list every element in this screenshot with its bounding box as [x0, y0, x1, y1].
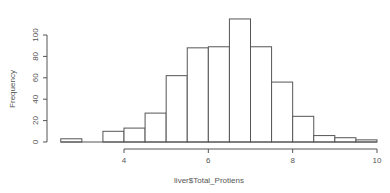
bars-group [61, 19, 377, 142]
y-tick-label: 60 [31, 73, 40, 82]
histogram-bar [103, 131, 124, 142]
histogram-bar [229, 19, 250, 142]
histogram-bar [145, 113, 166, 142]
x-tick-label: 10 [373, 156, 382, 165]
x-tick-label: 6 [206, 156, 211, 165]
x-axis-title: liver$Total_Protiens [174, 176, 244, 185]
histogram-bar [166, 76, 187, 142]
y-tick-label: 40 [31, 94, 40, 103]
y-tick-label: 80 [31, 51, 40, 60]
y-axis: 020406080100 [31, 28, 47, 144]
y-tick-label: 20 [31, 116, 40, 125]
histogram-bar [208, 47, 229, 142]
histogram-bar [272, 82, 293, 142]
y-tick-label: 100 [31, 28, 40, 42]
y-axis-title: Frequency [8, 70, 17, 108]
x-axis: 46810 [122, 149, 382, 165]
histogram-bar [124, 128, 145, 142]
x-tick-label: 4 [122, 156, 127, 165]
histogram-bar [251, 47, 272, 142]
x-tick-label: 8 [290, 156, 295, 165]
histogram-bar [187, 48, 208, 142]
histogram-bar [293, 116, 314, 142]
histogram-chart: 46810 020406080100 liver$Total_Protiens … [0, 0, 390, 193]
histogram-bar [314, 136, 335, 142]
histogram-bar [335, 138, 356, 142]
y-tick-label: 0 [31, 139, 40, 144]
